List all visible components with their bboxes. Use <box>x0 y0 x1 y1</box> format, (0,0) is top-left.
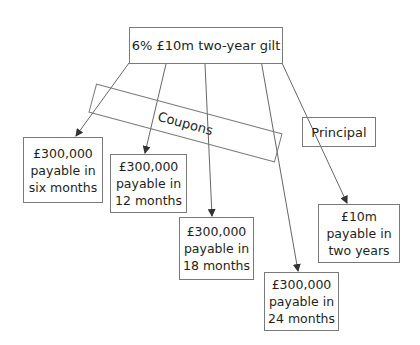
payment-timing: 24 months <box>268 310 335 327</box>
coupons-label: Coupons <box>156 108 214 137</box>
payment-amount: £10m <box>341 208 377 225</box>
payment-amount: £300,000 <box>119 158 179 175</box>
payment-text: payable in <box>116 175 181 192</box>
payment-text: payable in <box>326 225 391 242</box>
payment-text: payable in <box>269 293 334 310</box>
payment-amount: £300,000 <box>187 223 247 240</box>
payment-text: payable in <box>30 162 95 179</box>
principal-label: Principal <box>311 124 366 141</box>
principal-node-two-years: £10m payable in two years <box>318 204 400 263</box>
root-node-gilt: 6% £10m two-year gilt <box>129 27 283 64</box>
root-label: 6% £10m two-year gilt <box>132 37 280 54</box>
payment-amount: £300,000 <box>272 276 332 293</box>
payment-node-18-months: £300,000 payable in 18 months <box>179 217 254 280</box>
payment-amount: £300,000 <box>33 145 93 162</box>
payment-node-six-months: £300,000 payable in six months <box>23 137 103 203</box>
payment-node-24-months: £300,000 payable in 24 months <box>264 272 339 331</box>
payment-text: payable in <box>184 240 249 257</box>
arrow-to-24-months <box>261 60 298 271</box>
payment-timing: six months <box>29 179 97 196</box>
principal-group-label-box: Principal <box>302 117 376 147</box>
payment-timing: 18 months <box>183 257 250 274</box>
payment-timing: two years <box>328 242 389 259</box>
payment-timing: 12 months <box>115 192 182 209</box>
payment-node-12-months: £300,000 payable in 12 months <box>110 154 187 213</box>
